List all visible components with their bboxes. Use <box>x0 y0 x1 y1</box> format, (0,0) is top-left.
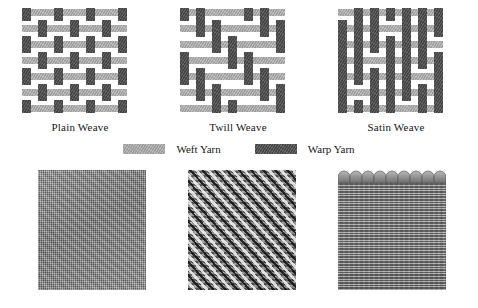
legend: Weft Yarn Warp Yarn <box>0 141 478 157</box>
weave-canvas-satin <box>338 8 443 113</box>
warp-yarn <box>260 8 269 37</box>
warp-yarn <box>38 20 47 37</box>
warp-yarn <box>196 68 205 101</box>
warp-yarn <box>244 8 253 21</box>
weft-yarn-swatch-icon <box>123 144 165 154</box>
warp-yarn <box>54 100 63 113</box>
weft-yarn <box>22 105 127 112</box>
warp-yarn <box>22 36 31 53</box>
warp-yarn <box>102 84 111 101</box>
fabric-photo-row <box>0 170 478 292</box>
weave-caption-satin: Satin Weave <box>326 121 466 133</box>
legend-item-warp: Warp Yarn <box>255 143 355 155</box>
warp-yarn <box>22 68 31 85</box>
warp-yarn <box>22 8 31 21</box>
fabric-photo-twill <box>188 170 296 290</box>
legend-label-warp: Warp Yarn <box>308 143 355 155</box>
warp-yarn <box>434 8 443 37</box>
warp-yarn <box>276 20 285 53</box>
warp-yarn <box>418 84 427 113</box>
warp-yarn <box>102 20 111 37</box>
warp-yarn <box>70 20 79 37</box>
warp-yarn <box>38 84 47 101</box>
warp-yarn <box>118 68 127 85</box>
weft-yarn <box>22 41 127 48</box>
warp-yarn <box>118 36 127 53</box>
warp-yarn <box>228 36 237 69</box>
warp-yarn <box>212 20 221 53</box>
weave-diagram-satin <box>338 8 454 118</box>
fabric-photo-satin-texture <box>338 182 446 290</box>
fabric-photo-twill-texture <box>188 170 296 290</box>
warp-yarn <box>54 36 63 53</box>
warp-yarn <box>386 36 395 113</box>
weave-diagram-row <box>0 8 478 120</box>
warp-yarn <box>196 8 205 37</box>
fabric-photo-plain <box>38 170 146 290</box>
warp-yarn <box>180 8 189 21</box>
warp-yarn <box>118 8 127 21</box>
warp-yarn <box>260 68 269 101</box>
warp-yarn <box>338 20 347 113</box>
legend-item-weft: Weft Yarn <box>123 143 220 155</box>
warp-yarn <box>418 8 427 69</box>
warp-yarn <box>212 84 221 113</box>
weave-canvas-twill <box>180 8 285 113</box>
warp-yarn <box>370 8 379 53</box>
warp-yarn <box>54 8 63 21</box>
warp-yarn <box>118 100 127 113</box>
weave-structure-figure: Plain Weave Twill Weave Satin Weave Weft… <box>0 0 478 308</box>
warp-yarn <box>180 52 189 85</box>
warp-yarn <box>244 52 253 85</box>
warp-yarn <box>354 100 363 113</box>
weave-caption-twill: Twill Weave <box>168 121 308 133</box>
warp-yarn <box>276 84 285 113</box>
scalloped-edge-icon <box>338 170 446 183</box>
fabric-photo-plain-texture <box>38 170 146 290</box>
warp-yarn <box>70 52 79 69</box>
warp-yarn <box>86 68 95 85</box>
warp-yarn <box>86 100 95 113</box>
weave-diagram-plain <box>22 8 138 118</box>
warp-yarn <box>402 8 411 101</box>
warp-yarn <box>86 8 95 21</box>
warp-yarn <box>102 52 111 69</box>
weave-diagram-twill <box>180 8 296 118</box>
warp-yarn <box>70 84 79 101</box>
warp-yarn <box>228 100 237 113</box>
weave-canvas-plain <box>22 8 127 113</box>
warp-yarn <box>386 8 395 21</box>
warp-yarn <box>354 8 363 85</box>
legend-label-weft: Weft Yarn <box>176 143 220 155</box>
warp-yarn <box>434 52 443 113</box>
weft-yarn <box>22 9 127 16</box>
warp-yarn <box>54 68 63 85</box>
warp-yarn <box>22 100 31 113</box>
weft-yarn <box>22 73 127 80</box>
warp-yarn <box>370 68 379 113</box>
warp-yarn-swatch-icon <box>255 144 297 154</box>
warp-yarn <box>86 36 95 53</box>
warp-yarn <box>38 52 47 69</box>
weave-caption-plain: Plain Weave <box>10 121 150 133</box>
fabric-photo-satin <box>338 170 446 290</box>
